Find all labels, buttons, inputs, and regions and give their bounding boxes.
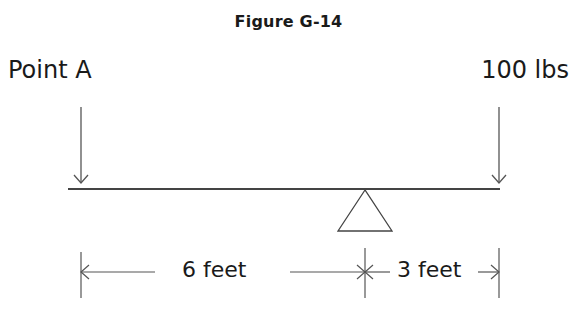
point-a-arrow-icon bbox=[74, 107, 88, 183]
fulcrum-triangle-icon bbox=[338, 190, 392, 231]
lever-diagram bbox=[0, 0, 577, 321]
left-span-label: 6 feet bbox=[178, 259, 250, 281]
right-span-label: 3 feet bbox=[393, 259, 465, 281]
weight-arrow-icon bbox=[492, 107, 506, 183]
